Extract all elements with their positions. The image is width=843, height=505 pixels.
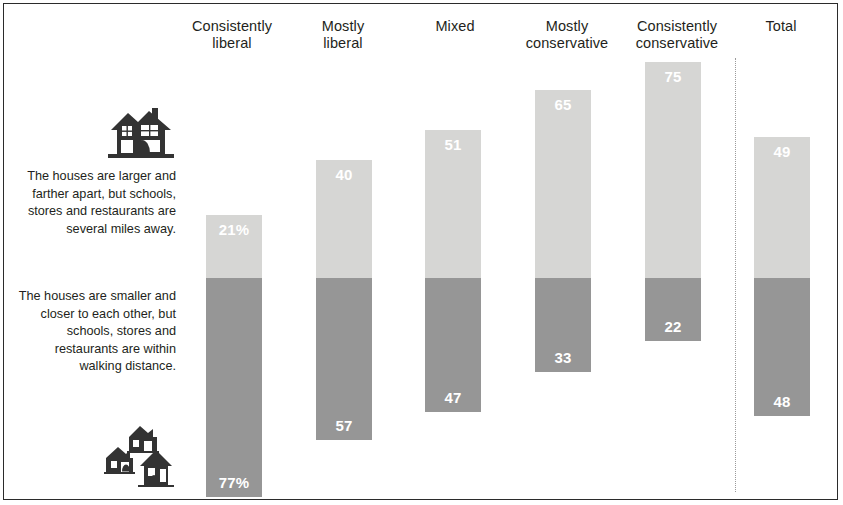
bar-segment-top: 75 [645, 62, 701, 278]
bar-segment-bottom: 22 [645, 278, 701, 341]
bar-group-total: 49 48 [754, 137, 810, 416]
bar-segment-bottom: 57 [316, 278, 372, 440]
chart-page: Consistently liberal Mostly liberal Mixe… [0, 0, 843, 505]
bar-segment-top: 40 [316, 160, 372, 278]
bar-value-top: 65 [535, 96, 591, 113]
bar-group-consistently-liberal: 21% 77% [206, 215, 262, 497]
bar-value-top: 49 [754, 143, 810, 160]
bar-value-bottom: 22 [645, 318, 701, 335]
bar-group-consistently-conservative: 75 22 [645, 62, 701, 341]
bar-group-mostly-conservative: 65 33 [535, 90, 591, 372]
bar-value-top: 40 [316, 166, 372, 183]
bar-segment-top: 49 [754, 137, 810, 278]
bar-segment-bottom: 77% [206, 278, 262, 497]
bar-value-bottom: 57 [316, 417, 372, 434]
bar-value-top: 51 [425, 136, 481, 153]
bar-segment-top: 21% [206, 215, 262, 278]
bar-value-bottom: 77% [206, 474, 262, 491]
bar-value-bottom: 48 [754, 393, 810, 410]
bars-area: 21% 77% 40 57 51 47 65 [0, 0, 843, 505]
bar-segment-bottom: 47 [425, 278, 481, 412]
bar-group-mostly-liberal: 40 57 [316, 160, 372, 440]
bar-value-bottom: 33 [535, 349, 591, 366]
bar-value-bottom: 47 [425, 389, 481, 406]
bar-segment-top: 65 [535, 90, 591, 278]
bar-segment-top: 51 [425, 130, 481, 278]
bar-segment-bottom: 48 [754, 278, 810, 416]
bar-group-mixed: 51 47 [425, 130, 481, 412]
bar-value-top: 21% [206, 221, 262, 238]
total-column-divider [735, 58, 736, 492]
bar-value-top: 75 [645, 68, 701, 85]
bar-segment-bottom: 33 [535, 278, 591, 372]
